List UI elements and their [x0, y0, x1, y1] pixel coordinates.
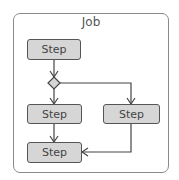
step-label: Step [42, 146, 67, 159]
step-4[interactable]: Step [27, 142, 82, 163]
step-1[interactable]: Step [27, 39, 81, 60]
step-label: Step [119, 108, 144, 121]
step-2[interactable]: Step [27, 104, 82, 124]
decision-diamond [48, 77, 60, 89]
step-3[interactable]: Step [103, 104, 160, 124]
step-label: Step [41, 43, 66, 56]
step-label: Step [42, 108, 67, 121]
